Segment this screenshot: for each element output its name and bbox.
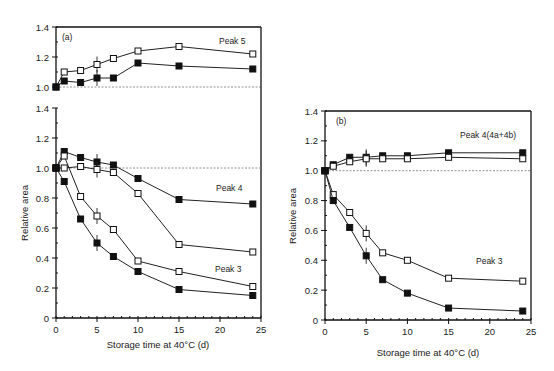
open-square-marker bbox=[78, 68, 84, 74]
x-tick-label: 10 bbox=[133, 324, 144, 335]
peak3-annotation-a: Peak 3 bbox=[215, 264, 242, 274]
open-square-marker bbox=[380, 250, 386, 256]
filled-square-marker bbox=[176, 197, 182, 203]
open-square-marker bbox=[363, 230, 369, 236]
open-square-marker bbox=[363, 156, 369, 162]
peak4-annotation: Peak 4 bbox=[216, 183, 243, 193]
figure: 1.01.21.400.20.40.60.81.01.21.4051015202… bbox=[0, 0, 554, 371]
x-tick-label: 25 bbox=[256, 324, 267, 335]
filled-square-marker bbox=[135, 176, 141, 182]
filled-square-marker bbox=[135, 60, 141, 66]
y-tick-label: 1.4 bbox=[305, 106, 318, 117]
filled-square-marker bbox=[347, 224, 353, 230]
x-tick-label: 0 bbox=[322, 326, 327, 337]
filled-square-marker bbox=[110, 75, 116, 81]
filled-square-marker bbox=[53, 165, 59, 171]
filled-square-marker bbox=[380, 277, 386, 283]
filled-square-marker bbox=[520, 308, 526, 314]
y-axis-label-a: Relative area bbox=[19, 184, 30, 241]
open-square-marker bbox=[380, 156, 386, 162]
open-square-marker bbox=[176, 44, 182, 50]
series-line bbox=[325, 153, 523, 171]
x-tick-label: 5 bbox=[94, 324, 99, 335]
x-axis-label-a: Storage time at 40°C (d) bbox=[107, 339, 210, 350]
filled-square-marker bbox=[94, 240, 100, 246]
filled-square-marker bbox=[330, 198, 336, 204]
peak5-annotation: Peak 5 bbox=[219, 36, 246, 46]
y-tick-label: 0.8 bbox=[305, 195, 318, 206]
panel-a-label: (a) bbox=[62, 32, 73, 42]
open-square-marker bbox=[446, 275, 452, 281]
open-square-marker bbox=[250, 284, 256, 290]
filled-square-marker bbox=[61, 179, 67, 185]
peak3-annotation-b: Peak 3 bbox=[476, 256, 503, 266]
y-tick-label: 0.6 bbox=[36, 223, 49, 234]
series-line bbox=[56, 167, 253, 253]
y-tick-label: 0.6 bbox=[305, 225, 318, 236]
open-square-marker bbox=[404, 156, 410, 162]
filled-square-marker bbox=[78, 80, 84, 86]
open-square-marker bbox=[94, 167, 100, 173]
series-line bbox=[56, 63, 253, 87]
filled-square-marker bbox=[110, 254, 116, 260]
filled-square-marker bbox=[61, 78, 67, 84]
open-square-marker bbox=[135, 191, 141, 197]
x-tick-label: 10 bbox=[402, 326, 413, 337]
filled-square-marker bbox=[520, 150, 526, 156]
y-tick-label: 0.4 bbox=[305, 255, 318, 266]
filled-square-marker bbox=[176, 63, 182, 69]
y-axis-label-b: Relative area bbox=[287, 187, 298, 244]
x-tick-label: 15 bbox=[174, 324, 185, 335]
filled-square-marker bbox=[250, 293, 256, 299]
open-square-marker bbox=[250, 249, 256, 255]
open-square-marker bbox=[61, 165, 67, 171]
open-square-marker bbox=[110, 227, 116, 233]
open-square-marker bbox=[330, 163, 336, 169]
open-square-marker bbox=[135, 258, 141, 264]
open-square-marker bbox=[61, 69, 67, 75]
open-square-marker bbox=[404, 257, 410, 263]
x-tick-label: 0 bbox=[53, 324, 58, 335]
open-square-marker bbox=[520, 278, 526, 284]
open-square-marker bbox=[347, 159, 353, 165]
open-square-marker bbox=[176, 269, 182, 275]
open-square-marker bbox=[61, 153, 67, 159]
series-line bbox=[56, 152, 253, 205]
open-square-marker bbox=[78, 194, 84, 200]
filled-square-marker bbox=[250, 201, 256, 207]
y-tick-label: 0 bbox=[313, 315, 318, 326]
open-square-marker bbox=[347, 210, 353, 216]
open-square-marker bbox=[94, 62, 100, 68]
filled-square-marker bbox=[78, 155, 84, 161]
x-tick-label: 15 bbox=[443, 326, 454, 337]
y-tick-label: 1.4 bbox=[36, 103, 49, 114]
filled-square-marker bbox=[176, 287, 182, 293]
filled-square-marker bbox=[78, 216, 84, 222]
open-square-marker bbox=[250, 51, 256, 57]
open-square-marker bbox=[110, 170, 116, 176]
open-square-marker bbox=[446, 154, 452, 160]
y-tick-label: 0.4 bbox=[36, 253, 49, 264]
filled-square-marker bbox=[446, 305, 452, 311]
y-tick-label: 1.4 bbox=[36, 22, 49, 33]
filled-square-marker bbox=[110, 162, 116, 168]
x-tick-label: 20 bbox=[485, 326, 496, 337]
filled-square-marker bbox=[250, 66, 256, 72]
y-tick-label: 0.8 bbox=[36, 193, 49, 204]
y-tick-label: 1.2 bbox=[305, 135, 318, 146]
y-tick-label: 0 bbox=[44, 313, 49, 324]
open-square-marker bbox=[135, 48, 141, 54]
open-square-marker bbox=[520, 156, 526, 162]
open-square-marker bbox=[110, 56, 116, 62]
filled-square-marker bbox=[94, 75, 100, 81]
filled-square-marker bbox=[135, 269, 141, 275]
filled-square-marker bbox=[322, 168, 328, 174]
x-tick-label: 5 bbox=[364, 326, 369, 337]
y-tick-label: 1.0 bbox=[36, 82, 49, 93]
panel-b: 00.20.40.60.81.01.21.40510152025 bbox=[305, 106, 537, 338]
series-line bbox=[325, 157, 523, 170]
filled-square-marker bbox=[53, 84, 59, 90]
x-axis-label-b: Storage time at 40°C (d) bbox=[377, 347, 480, 358]
y-tick-label: 1.0 bbox=[36, 163, 49, 174]
filled-square-marker bbox=[363, 253, 369, 259]
